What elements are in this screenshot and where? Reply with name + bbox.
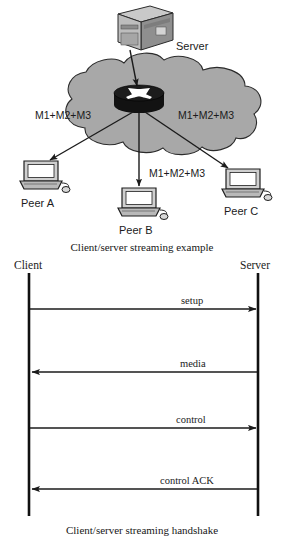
handshake-caption: Client/server streaming handshake	[0, 524, 284, 536]
flow-label-center: M1+M2+M3	[149, 168, 205, 179]
topology-figure: Server M1+M2+M3 M1+M2+M3 M1+M2+M3 Peer A…	[0, 0, 284, 258]
peer-a-computer-icon	[20, 161, 70, 193]
server-lifeline-label: Server	[240, 260, 270, 272]
flow-label-left: M1+M2+M3	[35, 110, 91, 121]
server-box-icon	[118, 6, 173, 50]
flow-label-right: M1+M2+M3	[178, 110, 234, 121]
peer-c-label: Peer C	[224, 206, 258, 217]
server-label: Server	[176, 41, 208, 52]
peer-b-computer-icon	[118, 188, 168, 220]
peer-b-label: Peer B	[119, 225, 153, 236]
client-lifeline-label: Client	[14, 260, 42, 272]
peer-a-label: Peer A	[21, 198, 54, 209]
message-label-media: media	[180, 359, 206, 370]
message-label-control: control	[176, 415, 206, 426]
handshake-figure: Client Server setup media control contro…	[0, 258, 284, 544]
figure-page: Server M1+M2+M3 M1+M2+M3 M1+M2+M3 Peer A…	[0, 0, 284, 544]
topology-caption: Client/server streaming example	[0, 241, 284, 253]
router-icon	[114, 85, 164, 113]
topology-canvas	[0, 0, 284, 258]
message-label-control-ack: control ACK	[160, 476, 214, 487]
message-label-setup: setup	[181, 296, 203, 307]
handshake-canvas	[0, 258, 284, 544]
peer-c-computer-icon	[222, 169, 272, 201]
